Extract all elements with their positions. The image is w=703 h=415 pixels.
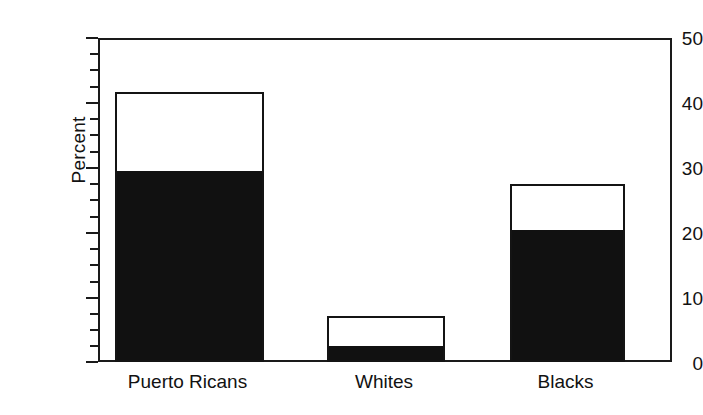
y-major-tick-0 bbox=[86, 361, 98, 363]
y-minor-tick-42-5 bbox=[90, 86, 98, 88]
y-minor-tick-27-5 bbox=[90, 183, 98, 185]
bar-fill-blacks bbox=[512, 230, 623, 360]
y-minor-tick-17-5 bbox=[90, 248, 98, 250]
y-major-tick-30 bbox=[86, 167, 98, 169]
y-minor-tick-37-5 bbox=[90, 118, 98, 120]
y-minor-tick-7-5 bbox=[90, 313, 98, 315]
y-minor-tick-12-5 bbox=[90, 281, 98, 283]
y-minor-tick-32-5 bbox=[90, 151, 98, 153]
y-minor-tick-5 bbox=[90, 329, 98, 331]
bar-whites bbox=[327, 316, 445, 362]
bar-fill-whites bbox=[329, 346, 443, 360]
chart-figure: Percent 50 40 30 20 10 0 bbox=[0, 0, 703, 415]
y-major-tick-20 bbox=[86, 232, 98, 234]
bar-blacks bbox=[510, 184, 625, 362]
bar-puerto-ricans bbox=[115, 92, 264, 362]
y-major-tick-50 bbox=[86, 37, 98, 39]
y-major-tick-10 bbox=[86, 297, 98, 299]
y-minor-tick-2-5 bbox=[90, 345, 98, 347]
x-tick-label-puerto-ricans: Puerto Ricans bbox=[113, 371, 262, 393]
y-minor-tick-15 bbox=[90, 264, 98, 266]
bar-fill-puerto-ricans bbox=[117, 171, 262, 360]
y-minor-tick-35 bbox=[90, 134, 98, 136]
x-tick-label-whites: Whites bbox=[325, 371, 443, 393]
y-minor-tick-47-5 bbox=[90, 53, 98, 55]
y-minor-tick-22-5 bbox=[90, 216, 98, 218]
x-tick-label-blacks: Blacks bbox=[508, 371, 623, 393]
y-minor-tick-45 bbox=[90, 69, 98, 71]
y-minor-tick-25 bbox=[90, 199, 98, 201]
plot-area bbox=[98, 38, 672, 362]
y-major-tick-40 bbox=[86, 102, 98, 104]
